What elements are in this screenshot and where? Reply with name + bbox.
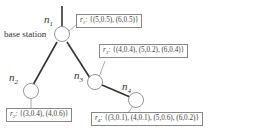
readings-label-r1: r1: [80,16,88,24]
readings-value-r3: {(4,0.4), (5,0.2), (6,0.4)} [113,46,185,54]
readings-value-r1: {(5,0.5), (6,0.5)} [90,16,139,24]
readings-label-r4: r4: [95,114,103,122]
node-label-n3: n3 [74,70,83,84]
readings-label-r3: r3: [103,46,111,54]
leader-n3 [99,61,105,77]
leader-n1 [69,25,76,31]
readings-box-n3: r3: {(4,0.4), (5,0.2), (6,0.4)} [99,44,188,58]
node-n1 [55,27,70,42]
node-n3 [88,75,103,90]
node-label-n1: n1 [44,14,53,28]
readings-box-n4: r4: {(3,0.1), (4,0.1), (5,0.6), (6,0.2)} [91,112,203,126]
edge-n1-n2 [33,42,57,85]
readings-box-n2: r2: {(3,0.4), (4,0.6)} [6,108,72,122]
readings-value-r4: {(3,0.1), (4,0.1), (5,0.6), (6,0.2)} [105,114,199,122]
base-station-caption: base station [4,30,46,39]
readings-box-n1: r1: {(5,0.5), (6,0.5)} [76,14,142,28]
node-label-n2: n2 [9,72,18,86]
node-label-n4: n4 [122,81,131,95]
readings-label-r2: r2: [10,110,18,118]
readings-value-r2: {(3,0.4), (4,0.6)} [20,110,69,118]
node-n2 [24,84,39,99]
